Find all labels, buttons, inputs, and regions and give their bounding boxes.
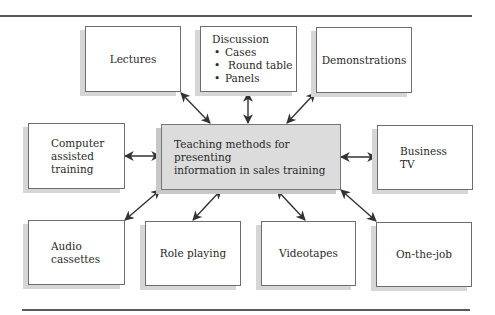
discussion-bullet-list: Cases Round table Panels (212, 46, 293, 85)
node-videotapes-label: Videotapes (279, 247, 338, 260)
node-role-playing-label: Role playing (160, 247, 226, 260)
node-computer-assisted-training: Computer assisted training (28, 123, 125, 189)
arrow-videotapes (277, 190, 305, 220)
node-audio-cassettes: Audio cassettes (28, 220, 125, 285)
node-line: Business (400, 145, 447, 158)
node-discussion: Discussion Cases Round table Panels (200, 26, 297, 92)
node-line: TV (400, 158, 447, 171)
node-business-tv: Business TV (377, 125, 473, 190)
node-on-the-job-label: On-the-job (396, 248, 452, 261)
center-line: Teaching methods for presenting (174, 138, 340, 164)
node-line: cassettes (51, 253, 100, 266)
node-videotapes: Videotapes (261, 221, 356, 286)
top-rule (0, 15, 472, 17)
arrow-on-the-job (341, 190, 376, 221)
node-demonstrations-label: Demonstrations (322, 54, 407, 67)
node-demonstrations: Demonstrations (316, 27, 412, 93)
node-role-playing: Role playing (145, 221, 241, 286)
arrow-demonstrations (287, 93, 315, 123)
node-discussion-title: Discussion (212, 33, 293, 46)
node-line: training (51, 163, 104, 176)
bottom-rule (22, 309, 470, 311)
node-on-the-job: On-the-job (376, 222, 472, 287)
center-node: Teaching methods for presenting informat… (161, 124, 341, 190)
node-lectures: Lectures (85, 26, 181, 92)
bullet-item: Round table (212, 59, 293, 72)
arrow-audio-cassettes (125, 190, 160, 220)
node-line: Computer (51, 137, 104, 150)
node-lectures-label: Lectures (110, 53, 157, 66)
node-line: assisted (51, 150, 104, 163)
arrow-role-playing (193, 190, 221, 220)
arrow-lectures (181, 93, 210, 123)
node-line: Audio (51, 240, 100, 253)
bullet-item: Cases (212, 46, 293, 59)
center-line: information in sales training (174, 164, 340, 177)
bullet-item: Panels (212, 72, 293, 85)
